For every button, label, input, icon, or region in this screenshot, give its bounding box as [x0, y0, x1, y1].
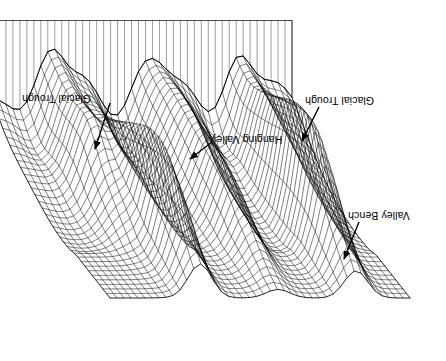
leader-arrow-glacial-trough-right: [302, 107, 319, 141]
block-diagram-figure: Glacial TroughGlacial TroughHanging Vall…: [0, 0, 446, 361]
annotation-label-glacial-trough-right: Glacial Trough: [305, 95, 374, 107]
leader-arrow-hanging-valley: [190, 142, 212, 159]
leader-arrow-valley-bench: [344, 222, 359, 259]
annotation-label-glacial-trough-left: Glacial Trough: [22, 93, 91, 105]
leader-arrow-glacial-trough-left: [95, 103, 110, 149]
annotation-leader-arrows: [0, 0, 446, 361]
annotation-label-hanging-valley: Hanging Valley: [211, 134, 282, 146]
annotation-label-valley-bench: Valley Bench: [348, 210, 410, 222]
